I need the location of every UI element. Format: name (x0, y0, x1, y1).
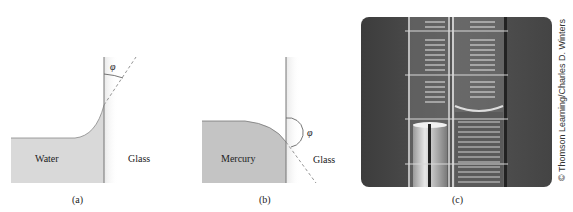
panel-a: φ Water Glass (a) (11, 57, 150, 206)
caption-b: (b) (259, 194, 271, 206)
caption-c: (c) (452, 194, 463, 206)
mercury-label: Mercury (221, 153, 255, 164)
capillary-figure: φ Water Glass (a) φ Mercury Glass (b) (0, 0, 573, 212)
water-region (11, 105, 104, 183)
panel-c-photo (361, 17, 552, 187)
phi-symbol: φ (307, 127, 313, 138)
phi-symbol: φ (110, 61, 116, 72)
water-label: Water (35, 153, 59, 164)
glass-label-a: Glass (128, 153, 150, 164)
water-column (455, 112, 503, 187)
panel-b: φ Mercury Glass (b) (202, 57, 335, 206)
photo-credit: © Thomson Learning/Charles D. Winters (556, 10, 568, 190)
glass-label-b: Glass (313, 154, 335, 165)
mercury-region (202, 121, 286, 183)
glass-shading (286, 57, 300, 183)
caption-a: (a) (72, 194, 83, 206)
